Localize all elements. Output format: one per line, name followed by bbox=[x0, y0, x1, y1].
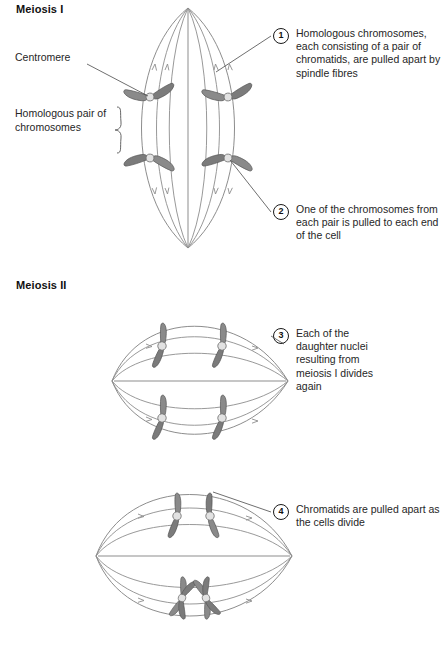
spindle-fibres-upper-half bbox=[112, 337, 288, 381]
leader-line-callout-4 bbox=[213, 492, 271, 512]
chromosome-upper-left bbox=[168, 493, 185, 539]
spindle-fibres-lower-half bbox=[112, 381, 288, 425]
chromosome-pair-upper-left bbox=[124, 83, 176, 104]
fibre-arrowheads bbox=[152, 64, 232, 194]
chromosome-upper-right bbox=[212, 323, 231, 369]
chromosome-pair-lower-left bbox=[124, 151, 176, 171]
chromosome-crossed-left bbox=[169, 576, 197, 620]
meiosis-ii-cell-upper bbox=[112, 323, 288, 441]
chromosome-upper-right bbox=[202, 493, 219, 539]
meiosis-i-cell bbox=[87, 8, 271, 248]
leader-line-callout-3 bbox=[271, 336, 284, 344]
chromosome-lower-left bbox=[152, 395, 171, 441]
spindle-fibres-left bbox=[157, 8, 189, 248]
spindle-fibres-right bbox=[188, 8, 220, 248]
homologous-pair-brace bbox=[115, 107, 121, 153]
cell-membrane-right bbox=[188, 8, 235, 248]
chromosome-pair-lower-right bbox=[202, 151, 254, 171]
chromosome-crossed-right bbox=[193, 576, 221, 620]
chromosome-lower-right bbox=[212, 395, 231, 441]
cell-membrane-bottom bbox=[112, 381, 288, 434]
cell-membrane-top bbox=[96, 495, 292, 557]
cell-membrane-left bbox=[142, 8, 189, 248]
meiosis-ii-cell-lower bbox=[96, 492, 292, 620]
leader-line-callout-1 bbox=[216, 36, 271, 72]
meiosis-artwork bbox=[0, 0, 442, 647]
meiosis-figure: Meiosis I Centromere Homologous pair of … bbox=[0, 0, 442, 647]
leader-line-centromere bbox=[87, 64, 148, 96]
spindle-fibres-lower-half bbox=[96, 556, 292, 604]
chromosome-pair-upper-right bbox=[202, 83, 254, 104]
